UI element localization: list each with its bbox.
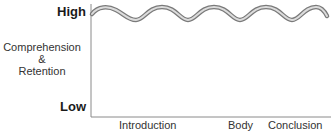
x-label-conclusion: Conclusion xyxy=(268,119,322,131)
x-label-introduction: Introduction xyxy=(119,119,176,131)
chart-plot xyxy=(0,0,331,133)
x-label-body: Body xyxy=(228,119,253,131)
